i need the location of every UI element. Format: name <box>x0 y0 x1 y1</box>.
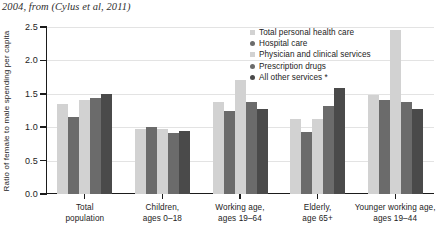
legend-swatch-icon <box>250 52 255 57</box>
bar <box>412 109 423 195</box>
legend-item[interactable]: Hospital care <box>250 39 371 48</box>
legend-item[interactable]: All other services * <box>250 73 371 82</box>
bar <box>146 127 157 194</box>
figure-caption: 2004, from (Cylus et al, 2011) <box>2 1 131 12</box>
x-axis-tick <box>317 194 318 199</box>
y-axis-tick-label: 2.5 <box>25 22 38 32</box>
legend-swatch-icon <box>250 64 255 69</box>
bar <box>323 106 334 194</box>
x-axis-category-label: Children,ages 0–18 <box>143 203 182 224</box>
chart-page: 2004, from (Cylus et al, 2011) Ratio of … <box>0 0 438 240</box>
x-axis-category-label: Elderly,age 65+ <box>302 203 333 224</box>
bar <box>246 102 257 194</box>
bar <box>257 109 268 194</box>
legend-item[interactable]: Prescription drugs <box>250 62 371 71</box>
bar <box>301 132 312 194</box>
y-axis-tick-label: 1.0 <box>25 122 38 132</box>
bar <box>224 111 235 195</box>
x-axis-tick <box>239 194 240 199</box>
bar-cluster <box>135 27 190 194</box>
legend-swatch-icon <box>250 41 255 46</box>
x-axis-category-line: Younger working age, <box>355 203 436 214</box>
y-axis-title: Ratio of female to male spending per cap… <box>2 30 11 191</box>
bar <box>68 117 79 194</box>
y-axis-tick-label: 0.0 <box>25 189 38 199</box>
plot-area: Ratio of female to male spending per cap… <box>46 27 434 194</box>
x-axis-category-label: Working age,ages 19–64 <box>215 203 264 224</box>
bar <box>379 100 390 194</box>
y-axis-tick-label: 1.5 <box>25 89 38 99</box>
x-axis-category-line: ages 19–44 <box>355 214 436 225</box>
bar <box>79 100 90 194</box>
bar <box>235 80 246 194</box>
legend-label: Prescription drugs <box>259 62 326 71</box>
x-axis-category-line: ages 19–64 <box>215 214 264 225</box>
bar <box>157 129 168 194</box>
legend-swatch-icon <box>250 75 255 80</box>
bar <box>401 102 412 194</box>
x-axis-category-line: Working age, <box>215 203 264 214</box>
legend-swatch-icon <box>250 30 255 35</box>
bar-cluster <box>368 27 423 194</box>
x-axis-category-line: age 65+ <box>302 214 333 225</box>
bar <box>312 119 323 194</box>
bar <box>368 95 379 194</box>
x-axis-category-line: Total <box>65 203 104 214</box>
bar <box>290 119 301 194</box>
bar <box>213 102 224 194</box>
x-axis-category-line: Elderly, <box>302 203 333 214</box>
x-axis-tick <box>162 194 163 199</box>
x-axis-category-line: Children, <box>143 203 182 214</box>
bar <box>57 104 68 194</box>
y-axis-tick-label: 2.0 <box>25 55 38 65</box>
bar <box>90 98 101 194</box>
legend-label: Hospital care <box>259 39 307 48</box>
bar-cluster <box>57 27 112 194</box>
legend-label: Total personal health care <box>259 28 354 37</box>
bar <box>179 131 190 194</box>
legend-item[interactable]: Physician and clinical services <box>250 50 371 59</box>
legend-label: All other services * <box>259 73 328 82</box>
x-axis-category-line: population <box>65 214 104 225</box>
x-axis-category-label: Younger working age,ages 19–44 <box>355 203 436 224</box>
x-axis-category-label: Totalpopulation <box>65 203 104 224</box>
bar <box>135 129 146 194</box>
chart-legend: Total personal health careHospital careP… <box>250 28 371 82</box>
y-axis-tick-label: 0.5 <box>25 156 38 166</box>
bar <box>168 133 179 194</box>
legend-item[interactable]: Total personal health care <box>250 28 371 37</box>
legend-label: Physician and clinical services <box>259 50 371 59</box>
bar <box>390 30 401 194</box>
bar <box>101 94 112 194</box>
x-axis-tick <box>84 194 85 199</box>
bar-groups: TotalpopulationChildren,ages 0–18Working… <box>46 27 434 194</box>
x-axis-category-line: ages 0–18 <box>143 214 182 225</box>
x-axis-tick <box>395 194 396 199</box>
bar <box>334 88 345 194</box>
